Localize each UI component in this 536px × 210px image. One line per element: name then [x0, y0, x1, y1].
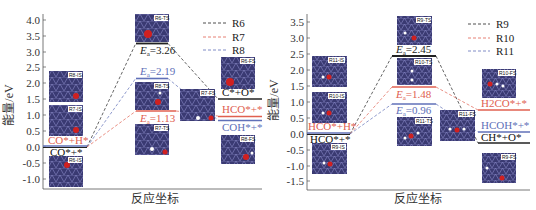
- y-tick-label: -1.0: [287, 160, 305, 172]
- svg-text:R11-IS: R11-IS: [329, 57, 345, 63]
- structure-thumb-r7-ts: R7-TS: [135, 124, 170, 155]
- structure-thumb-r9-fs: R9-FS: [482, 153, 517, 183]
- legend-r10: R10: [496, 32, 515, 44]
- svg-text:R11-FS: R11-FS: [459, 111, 477, 117]
- connector-r7: [87, 111, 136, 147]
- svg-text:R7-TS: R7-TS: [155, 125, 170, 131]
- structure-thumb-r9-ts: R9-TS: [397, 16, 432, 45]
- right-energy-diagram: 3.5 3.0 2.5 2.0 1.5 1.0 0.5 0.0 -0.5 -1.…: [268, 0, 536, 210]
- y-tick-label: 1.5: [290, 80, 304, 92]
- connector-r6: [87, 43, 136, 147]
- structure-thumb-r8-ts: R8-TS: [135, 82, 170, 110]
- svg-text:R9-FS: R9-FS: [502, 154, 517, 160]
- structure-thumb-r6-ts: R6-TS: [135, 14, 170, 42]
- ea-label-r9: Ea=2.45: [395, 43, 432, 57]
- svg-text:R8-FS: R8-FS: [241, 136, 256, 142]
- svg-text:R6-FS: R6-FS: [241, 58, 256, 64]
- ea-label-r8: Ea=2.19: [139, 65, 176, 79]
- structure-thumb-r11-fs: R11-FS: [440, 110, 477, 141]
- legend-r8: R8: [232, 44, 245, 56]
- y-tick-label: 2.5: [26, 61, 40, 73]
- species-label-coh: COH*+*: [222, 121, 262, 133]
- structure-thumb-r10-ts: R10-TS: [397, 58, 433, 85]
- ea-label-r11: Ea=0.96: [395, 104, 432, 118]
- y-tick-label: 2.0: [290, 64, 304, 76]
- structure-thumb-r11-is: R11-IS: [312, 56, 347, 87]
- y-tick-label: 0.0: [290, 128, 304, 140]
- svg-text:R8-TS: R8-TS: [155, 83, 170, 89]
- left-energy-diagram: 4.0 3.5 3.0 2.5 2.0 1.5 1.0 0.5 0.0 -0.5…: [0, 0, 268, 210]
- y-tick-label: 0.5: [26, 125, 40, 137]
- legend: R6 R7 R8: [203, 17, 245, 56]
- svg-text:R6-IS: R6-IS: [69, 157, 82, 163]
- structure-thumb-r8-fs: R8-FS: [221, 135, 256, 164]
- svg-text:R8-IS: R8-IS: [69, 72, 82, 78]
- y-tick-label: 1.5: [26, 93, 40, 105]
- y-tick-label: 3.5: [26, 30, 40, 42]
- svg-text:R10-FS: R10-FS: [499, 70, 517, 76]
- legend-r9: R9: [496, 18, 509, 30]
- ea-label-r7: Ea=1.13: [139, 112, 176, 126]
- structure-thumb-r7-fs: R7-FS: [180, 89, 216, 121]
- y-axis-title: 能量/eV: [267, 79, 281, 121]
- ea-label-r6: Ea=3.26: [139, 44, 176, 58]
- y-tick-label: -1.0: [23, 173, 41, 185]
- structure-thumb-r7-is: R7-IS: [49, 105, 83, 136]
- x-axis-title: 反应坐标: [394, 191, 442, 206]
- y-tick-label: 2.5: [290, 48, 304, 60]
- svg-text:R10-TS: R10-TS: [415, 59, 433, 65]
- legend-r11: R11: [496, 45, 514, 57]
- structure-thumb-r10-is: R10-IS: [312, 92, 347, 123]
- species-label-h2co: H2CO*+*: [481, 97, 527, 109]
- species-label-ch-o: CH*+O*: [481, 131, 521, 143]
- right-chart-svg: 3.5 3.0 2.5 2.0 1.5 1.0 0.5 0.0 -0.5 -1.…: [268, 0, 536, 210]
- left-chart-svg: 4.0 3.5 3.0 2.5 2.0 1.5 1.0 0.5 0.0 -0.5…: [0, 0, 268, 210]
- y-tick-label: 3.0: [290, 32, 304, 44]
- y-tick-label: -0.5: [23, 157, 41, 169]
- svg-text:R9-TS: R9-TS: [417, 17, 432, 23]
- y-ticks: [43, 20, 46, 179]
- y-tick-label: 1.0: [26, 109, 40, 121]
- y-tick-label: 3.0: [26, 46, 40, 58]
- y-tick-label: -1.5: [287, 175, 305, 187]
- y-tick-label: 3.5: [290, 16, 304, 28]
- structure-thumb-r10-fs: R10-FS: [482, 69, 517, 98]
- y-ticks: [307, 22, 310, 181]
- structure-thumb-r6-is: R6-IS: [49, 156, 83, 187]
- legend-r6: R6: [232, 17, 245, 29]
- y-axis-title: 能量/eV: [2, 84, 16, 126]
- legend-r7: R7: [232, 31, 245, 43]
- y-tick-label: 0.5: [290, 112, 304, 124]
- y-tick-label: 4.0: [26, 14, 40, 26]
- structure-thumb-r9-is: R9-IS: [312, 143, 347, 174]
- y-tick-label: 2.0: [26, 77, 40, 89]
- structure-thumb-r6-fs: R6-FS: [221, 57, 256, 89]
- species-label-hcoh: HCOH*+*: [481, 119, 529, 131]
- svg-text:R9-IS: R9-IS: [332, 144, 345, 150]
- svg-text:R7-IS: R7-IS: [69, 106, 82, 112]
- structure-thumb-r11-ts: R11-TS: [397, 117, 434, 146]
- svg-text:R10-IS: R10-IS: [329, 93, 345, 99]
- structure-thumb-r8-is: R8-IS: [49, 71, 83, 102]
- x-axis-title: 反应坐标: [131, 191, 179, 206]
- svg-text:R11-TS: R11-TS: [416, 118, 434, 124]
- y-tick-label: -0.5: [287, 144, 305, 156]
- y-tick-label: 1.0: [290, 96, 304, 108]
- ea-label-r10: Ea=1.48: [395, 88, 432, 102]
- legend: R9 R10 R11: [468, 18, 515, 57]
- svg-text:R6-TS: R6-TS: [155, 15, 170, 21]
- connector-r10-fs: [436, 87, 478, 110]
- species-label-hco: HCO*+*: [222, 103, 262, 115]
- connector-r8: [87, 78, 136, 147]
- svg-text:R7-FS: R7-FS: [201, 90, 216, 96]
- y-tick-label: 0.0: [26, 141, 40, 153]
